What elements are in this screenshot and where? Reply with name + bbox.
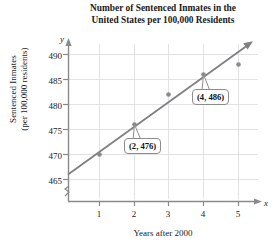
y-axis [63,38,72,201]
x-axis [68,198,262,206]
grid-lines [68,44,258,199]
data-point-5 [236,62,241,67]
chart-figure: Number of Sentenced Inmates in the Unite… [0,0,278,247]
data-point-1 [97,152,102,157]
plot-area [0,0,278,247]
annotation-callout-1: (2, 476) [124,138,161,154]
annotation-callout-2: (4, 486) [192,89,229,105]
callout-tails [133,75,210,141]
data-point-3 [166,92,171,97]
